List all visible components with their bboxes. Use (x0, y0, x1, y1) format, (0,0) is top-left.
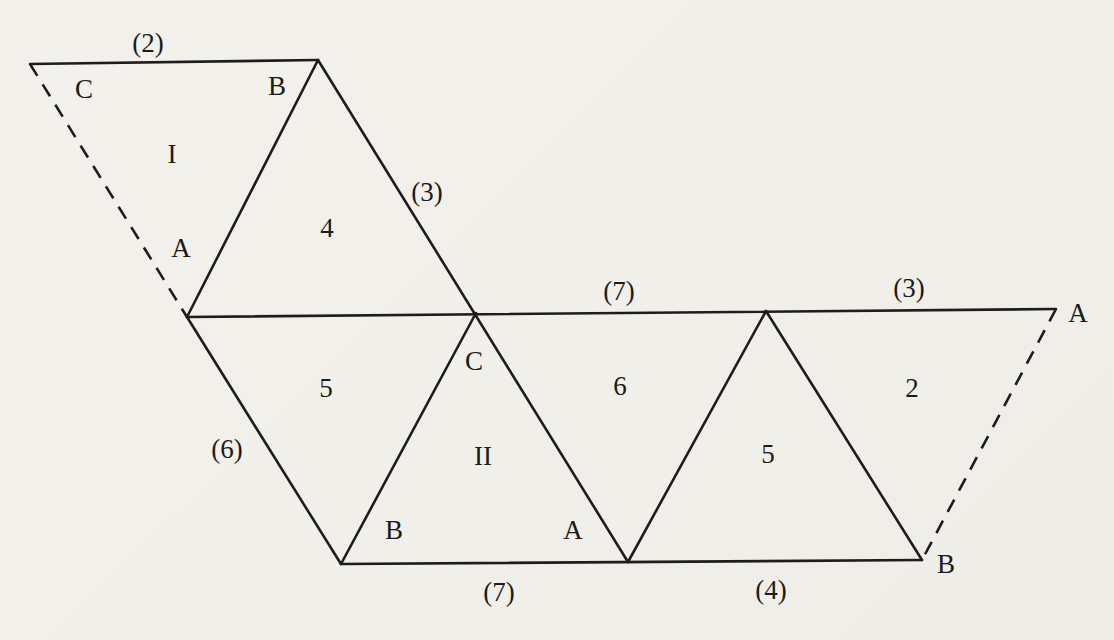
edge-dashed-left (30, 64, 187, 317)
face-label-6: 6 (613, 371, 627, 401)
face-label-5-upper: 5 (319, 373, 333, 403)
edge-label-bottom-right: (4) (755, 575, 786, 605)
edge-label-bottom-left: (7) (483, 577, 514, 607)
edge-5-lower-right (766, 311, 922, 560)
edge-bottom-horizontal (341, 560, 922, 564)
vertex-label-right-A: A (1068, 298, 1088, 328)
face-labels: I 4 5 II 6 5 2 (168, 139, 919, 471)
face-label-4: 4 (320, 213, 334, 243)
face-label-II: II (474, 441, 492, 471)
edge-II-left (341, 313, 476, 564)
scanned-diagram-page: (2) (3) (7) (3) (6) (7) (4) I 4 5 II 6 5… (0, 0, 1114, 640)
edge-middle-horizontal (187, 309, 1056, 317)
vertex-label-I-C: C (75, 74, 93, 104)
dashed-edges (30, 64, 1056, 560)
face-label-5-lower: 5 (761, 439, 775, 469)
vertex-label-right-B: B (937, 549, 955, 579)
edge-label-top: (2) (132, 28, 163, 58)
vertex-label-I-B: B (268, 71, 286, 101)
edge-5-lower-left (628, 311, 766, 562)
vertex-label-II-A: A (563, 515, 583, 545)
face-label-2: 2 (905, 373, 919, 403)
vertex-label-II-C: C (465, 346, 483, 376)
face-label-I: I (168, 139, 177, 169)
edge-between-I-and-4 (187, 60, 318, 317)
edge-6-diagonal (187, 317, 341, 564)
edge-label-left-diagonal: (6) (211, 434, 242, 464)
vertex-label-II-B: B (385, 515, 403, 545)
edge-top-2 (30, 60, 318, 64)
vertex-labels: C B A C B A A B (75, 71, 1088, 579)
vertex-label-I-A: A (171, 233, 191, 263)
edge-label-middle-right: (3) (893, 273, 924, 303)
edge-label-upper-diagonal: (3) (411, 177, 442, 207)
edge-diagonal-3-through-C (318, 60, 628, 562)
triangle-net-diagram: (2) (3) (7) (3) (6) (7) (4) I 4 5 II 6 5… (0, 0, 1114, 640)
edge-label-middle-left: (7) (603, 276, 634, 306)
edge-dashed-right-A-B (922, 309, 1056, 560)
